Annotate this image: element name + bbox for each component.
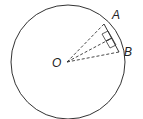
- label-a: A: [111, 8, 120, 22]
- geometry-diagram: O A B: [0, 0, 143, 119]
- label-b: B: [124, 45, 132, 59]
- label-o: O: [52, 56, 61, 70]
- right-angle-markers: [102, 31, 116, 48]
- perpendicular-line: [67, 38, 112, 62]
